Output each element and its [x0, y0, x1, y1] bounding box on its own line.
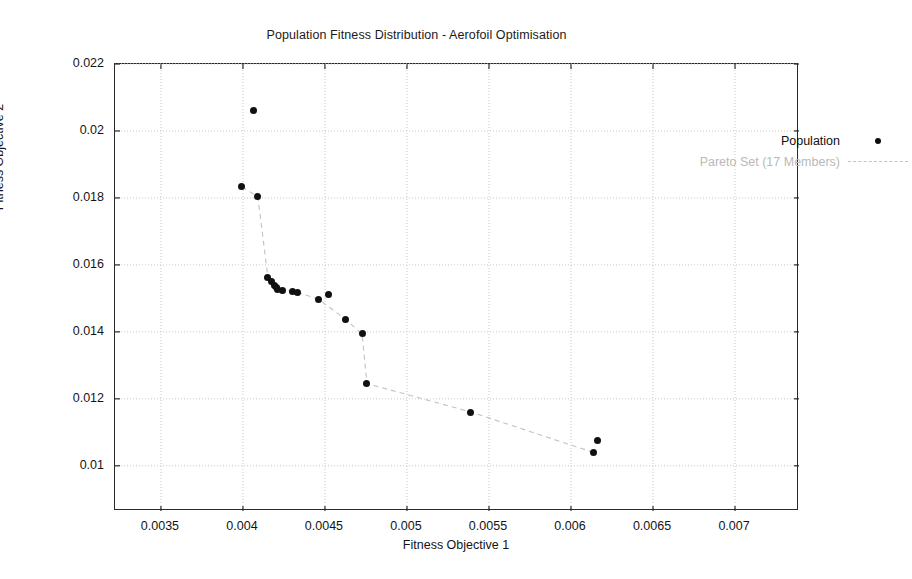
x-tick-label: 0.006 [554, 519, 585, 533]
x-axis-label: Fitness Objective 1 [114, 538, 798, 552]
x-tick-label: 0.0045 [305, 519, 343, 533]
y-tick-label: 0.016 [0, 257, 104, 271]
chart-legend: Population Pareto Set (17 Members) [675, 128, 912, 172]
legend-item-population[interactable]: Population [675, 130, 912, 151]
legend-key-dot [844, 138, 912, 144]
y-tick-label: 0.01 [0, 458, 104, 472]
x-tick-label: 0.0065 [633, 519, 671, 533]
chart-title: Population Fitness Distribution - Aerofo… [0, 28, 833, 42]
y-tick-label: 0.02 [0, 123, 104, 137]
x-tick-label: 0.005 [390, 519, 421, 533]
data-point [359, 330, 366, 337]
legend-key-dashed-line [844, 161, 912, 162]
x-tick-label: 0.004 [226, 519, 257, 533]
y-tick-label: 0.014 [0, 324, 104, 338]
pareto-set-line [242, 187, 594, 453]
y-tick-label: 0.012 [0, 391, 104, 405]
y-tick-label: 0.022 [0, 56, 104, 70]
legend-label-pareto-set: Pareto Set (17 Members) [700, 155, 840, 169]
legend-item-pareto-set[interactable]: Pareto Set (17 Members) [675, 151, 912, 172]
data-point [594, 437, 601, 444]
data-point [467, 409, 474, 416]
x-tick-label: 0.007 [718, 519, 749, 533]
plot-area: Population Pareto Set (17 Members) [114, 63, 798, 510]
x-tick-label: 0.0035 [141, 519, 179, 533]
x-tick-label: 0.0055 [469, 519, 507, 533]
legend-label-population: Population [781, 134, 840, 148]
y-tick-label: 0.018 [0, 190, 104, 204]
